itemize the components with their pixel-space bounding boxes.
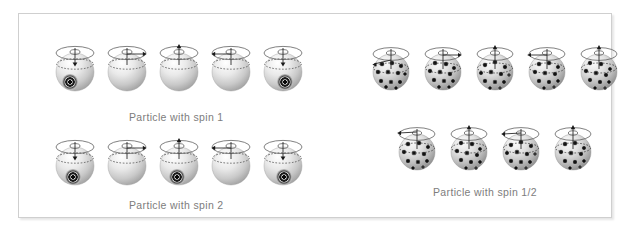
sphere-spinhalf-3[interactable] [521,38,573,94]
figure-panel: Particle with spin 1 [18,13,612,218]
rotation-arrow-left [399,132,417,133]
arrow-head-up [597,45,602,49]
sphere-spin1-2[interactable] [153,38,205,94]
bullseye-marker [65,169,81,185]
sphere-row-spin-1 [49,38,309,94]
sphere-spin1-1[interactable] [101,38,153,94]
sphere-spinhalf-8[interactable] [547,118,599,174]
sphere-row-spin-half-a [365,38,625,94]
caption-spin-half: Particle with spin 1/2 [433,186,537,198]
sphere-spin1-3[interactable] [205,38,257,94]
sphere-spin2-1[interactable] [101,132,153,188]
bullseye-marker [276,169,292,185]
sphere-row-spin-2 [49,132,309,188]
caption-spin-2: Particle with spin 2 [129,199,224,211]
sphere-spinhalf-4[interactable] [573,38,625,94]
sphere-spin1-0[interactable] [49,38,101,94]
sphere-spinhalf-5[interactable] [391,118,443,174]
arrow-head-up [571,125,576,129]
figure-root: Particle with spin 1 [0,0,633,231]
sphere-spinhalf-0[interactable] [365,38,417,94]
sphere-spin1-4[interactable] [257,38,309,94]
sphere-spinhalf-1[interactable] [417,38,469,94]
bullseye-marker [277,74,293,90]
sphere-spin2-4[interactable] [257,132,309,188]
sphere-spin2-0[interactable] [49,132,101,188]
arrow-head-up [493,45,498,49]
sphere-spinhalf-7[interactable] [495,118,547,174]
arrow-head-up [467,125,472,129]
sphere-spin2-2[interactable] [153,132,205,188]
sphere-spinhalf-6[interactable] [443,118,495,174]
sphere-row-spin-half-b [391,118,599,174]
bullseye-marker [169,169,185,185]
sphere-spinhalf-2[interactable] [469,38,521,94]
sphere-spin2-3[interactable] [205,132,257,188]
caption-spin-1: Particle with spin 1 [129,111,224,123]
bullseye-marker [62,74,78,90]
rotation-arrow-left [503,133,521,134]
